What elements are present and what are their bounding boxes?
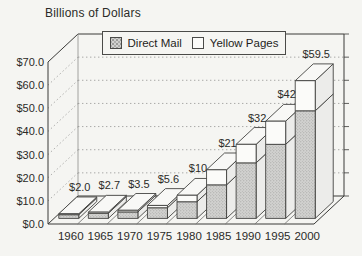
bar-segment-yellow-pages <box>207 170 227 185</box>
y-axis-tick-label: $50.0 <box>16 102 44 114</box>
chart-title: Billions of Dollars <box>45 6 141 20</box>
gridline-left-wall <box>48 103 78 131</box>
bar-segment-direct-mail <box>118 212 138 218</box>
y-axis-tick-label: $60.0 <box>16 79 44 91</box>
legend-swatch-yellow-pages-icon <box>192 37 204 49</box>
legend: Direct Mail Yellow Pages <box>102 31 286 55</box>
bar-2000 <box>295 64 333 219</box>
y-axis-tick-label: $30.0 <box>16 149 44 161</box>
bar-segment-direct-mail <box>88 213 108 218</box>
x-axis-tick-label: 1985 <box>206 230 232 242</box>
bar-segment-yellow-pages <box>118 210 138 212</box>
bar-total-label: $10 <box>189 162 207 174</box>
bar-segment-yellow-pages <box>266 121 286 144</box>
bar-total-label: $42 <box>277 88 295 100</box>
y-axis-tick-label: $10.0 <box>16 195 44 207</box>
legend-label-yellow-pages: Yellow Pages <box>210 37 279 49</box>
bar-segment-yellow-pages <box>59 214 79 215</box>
bar-segment-direct-mail <box>266 144 286 218</box>
legend-swatch-direct-mail-icon <box>110 37 122 49</box>
bar-segment-yellow-pages <box>147 205 167 207</box>
bar-total-label: $2.7 <box>99 179 120 191</box>
x-axis-tick-label: 1995 <box>265 230 291 242</box>
bar-total-label: $21 <box>218 137 236 149</box>
x-axis-tick-label: 1990 <box>235 230 261 242</box>
x-axis-tick-label: 1975 <box>147 230 173 242</box>
bar-segment-yellow-pages <box>236 144 256 163</box>
x-axis-tick-label: 1960 <box>58 230 84 242</box>
bar-side-direct-mail <box>315 94 333 218</box>
gridline-left-wall <box>48 80 78 108</box>
y-axis-tick-label: $0.0 <box>23 218 44 230</box>
gridline-left-wall <box>48 127 78 155</box>
bar-total-label: $2.0 <box>69 181 90 193</box>
bar-segment-yellow-pages <box>295 81 315 111</box>
bar-segment-direct-mail <box>295 111 315 219</box>
gridline-left-wall <box>48 150 78 178</box>
top-left-depth-edge <box>48 34 78 62</box>
legend-label-direct-mail: Direct Mail <box>128 37 182 49</box>
bars <box>59 64 333 219</box>
bar-segment-yellow-pages <box>177 195 197 201</box>
bar-total-label: $3.5 <box>128 178 149 190</box>
bar-segment-direct-mail <box>207 185 227 219</box>
y-axis-tick-label: $70.0 <box>16 56 44 68</box>
bar-segment-direct-mail <box>177 202 197 219</box>
bar-total-label: $59.5 <box>302 48 330 60</box>
bar-total-label: $5.6 <box>158 173 179 185</box>
gridline-left-wall <box>48 57 78 85</box>
bar-segment-yellow-pages <box>88 212 108 213</box>
y-axis-tick-label: $20.0 <box>16 172 44 184</box>
figure: $2.0$2.7$3.5$5.6$10$21$32$42$59.5$0.0$10… <box>0 0 362 256</box>
x-axis-tick-label: 2000 <box>294 230 320 242</box>
x-axis-tick-label: 1965 <box>88 230 114 242</box>
x-axis-tick-label: 1980 <box>176 230 202 242</box>
bar-segment-direct-mail <box>236 163 256 219</box>
bar-total-label: $32 <box>248 112 266 124</box>
x-axis-tick-label: 1970 <box>117 230 143 242</box>
bar-segment-direct-mail <box>147 208 167 219</box>
bar-segment-direct-mail <box>59 215 79 219</box>
y-axis-tick-label: $40.0 <box>16 125 44 137</box>
